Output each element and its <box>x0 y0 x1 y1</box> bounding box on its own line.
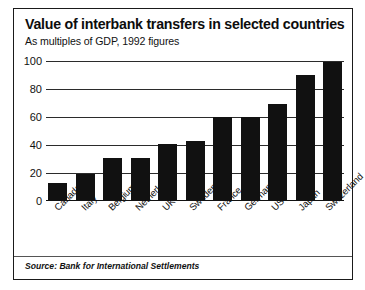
y-tick-label: 40 <box>30 140 42 151</box>
y-tick-label: 100 <box>24 56 42 67</box>
chart-title: Value of interbank transfers in selected… <box>25 16 344 32</box>
source-note: Source: Bank for International Settlemen… <box>25 261 199 271</box>
chart-frame: Value of interbank transfers in selected… <box>13 8 353 280</box>
source-divider <box>14 256 352 257</box>
plot-area: 020406080100 <box>46 61 344 201</box>
y-tick-label: 80 <box>30 84 42 95</box>
y-tick-label: 0 <box>36 196 42 207</box>
y-tick-label: 20 <box>30 168 42 179</box>
y-tick-label: 60 <box>30 112 42 123</box>
chart-subtitle: As multiples of GDP, 1992 figures <box>25 35 179 47</box>
chart-figure: Value of interbank transfers in selected… <box>0 0 365 290</box>
bar-series <box>46 61 344 201</box>
bar <box>296 75 315 201</box>
bar <box>323 62 342 201</box>
